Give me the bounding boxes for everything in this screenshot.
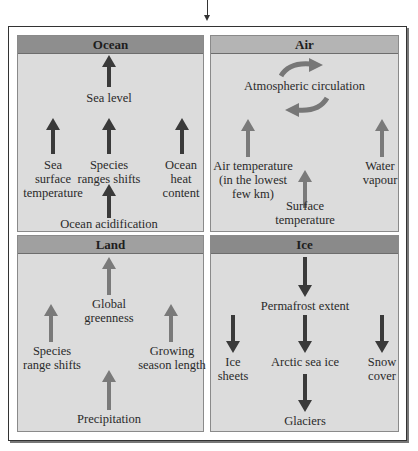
panel-ice-header: Ice — [211, 236, 398, 254]
arrow-up-icon — [102, 118, 116, 154]
panel-air: Air Atmospheric circulation Air temperat… — [210, 35, 399, 232]
arrow-down-icon — [375, 315, 389, 353]
label-arctic-sea-ice: Arctic sea ice — [251, 355, 359, 369]
panel-ocean: Ocean Sea level Sea surface temperature … — [17, 35, 204, 232]
arrow-down-icon — [298, 257, 312, 297]
incoming-connector-arrowhead — [204, 15, 210, 21]
indicators-frame: Ocean Sea level Sea surface temperature … — [8, 26, 407, 441]
label-air-temperature: Air temperature (in the lowest few km) — [213, 159, 293, 201]
label-global-greenness: Global greenness — [64, 297, 154, 325]
label-growing-season-length: Growing season length — [132, 344, 212, 372]
label-glaciers: Glaciers — [265, 414, 345, 428]
panel-land: Land Global greenness Species range shif… — [17, 235, 204, 432]
label-species-range-shifts: Species range shifts — [18, 344, 86, 372]
label-water-vapour: Water vapour — [357, 159, 403, 187]
label-sea-level: Sea level — [58, 91, 160, 105]
label-ice-sheets: Ice sheets — [211, 355, 255, 383]
arrow-up-icon — [102, 257, 116, 295]
arrow-up-icon — [175, 118, 189, 154]
label-ocean-heat-content: Ocean heat content — [158, 158, 204, 200]
arrow-down-icon — [298, 315, 312, 353]
arrow-up-icon — [102, 55, 116, 87]
arrow-up-icon — [164, 304, 178, 342]
label-atmospheric-circulation: Atmospheric circulation — [221, 79, 388, 93]
label-species-ranges-shifts: Species ranges shifts — [64, 158, 154, 186]
label-snow-cover: Snow cover — [359, 355, 405, 383]
arrow-up-icon — [46, 118, 60, 154]
label-surface-temperature: Surface temperature — [265, 199, 345, 227]
label-permafrost-extent: Permafrost extent — [245, 299, 365, 313]
arrow-down-icon — [298, 374, 312, 412]
panel-land-header: Land — [18, 236, 203, 254]
panel-air-header: Air — [211, 36, 398, 54]
arrow-up-icon — [241, 119, 255, 157]
arrow-up-icon — [102, 184, 116, 218]
arrow-up-icon — [375, 119, 389, 157]
panel-ocean-header: Ocean — [18, 36, 203, 54]
arrow-down-icon — [226, 315, 240, 353]
label-precipitation: Precipitation — [58, 412, 160, 426]
arrow-up-icon — [102, 370, 116, 410]
label-ocean-acidification: Ocean acidification — [38, 217, 180, 231]
panel-ice: Ice Permafrost extent Ice sheets Arctic … — [210, 235, 399, 432]
arrow-up-icon — [44, 304, 58, 342]
